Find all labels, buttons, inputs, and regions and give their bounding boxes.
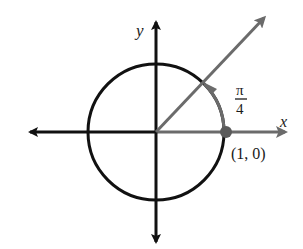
x-axis-label: x (279, 113, 287, 130)
y-axis-label: y (134, 21, 144, 40)
unit-circle-diagram: y x π 4 (1, 0) (0, 0, 303, 249)
point-label: (1, 0) (231, 145, 266, 163)
angle-denominator: 4 (236, 101, 244, 117)
point-1-0 (220, 126, 232, 138)
angle-numerator: π (236, 82, 244, 98)
terminal-ray (156, 18, 264, 132)
